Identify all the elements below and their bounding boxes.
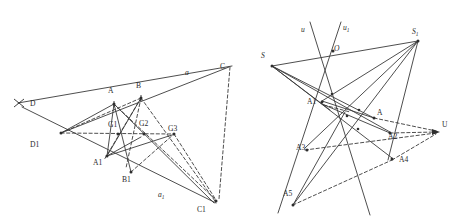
point-inner-4 bbox=[357, 128, 360, 131]
segment-D1-A bbox=[61, 104, 114, 133]
label-S: S bbox=[261, 51, 265, 60]
label-A3: A3 bbox=[296, 143, 305, 152]
point-A1 bbox=[106, 155, 109, 158]
point-A3 bbox=[306, 149, 309, 152]
label-D1: D1 bbox=[30, 140, 39, 149]
label-A4: A4 bbox=[399, 155, 408, 164]
point-inner-1 bbox=[331, 93, 334, 96]
dashed-D1-B bbox=[61, 98, 141, 133]
dashed-A-U bbox=[374, 118, 436, 131]
segment-S1-A4b bbox=[388, 41, 418, 160]
label-line-a1: a1 bbox=[158, 190, 165, 200]
label-O: O bbox=[334, 44, 340, 53]
label-line-u1: u1 bbox=[343, 23, 350, 33]
point-inner-2 bbox=[346, 115, 349, 118]
segment-S-A2 bbox=[272, 66, 390, 132]
segment-B1-A bbox=[114, 104, 131, 172]
label-D: D bbox=[30, 99, 36, 108]
right-construction: u u1 S S1 O A1 A A2 A3 A4 A5 U bbox=[261, 22, 448, 215]
label-A1: A1 bbox=[93, 158, 102, 167]
point-S1 bbox=[417, 40, 420, 43]
label-S1: S1 bbox=[412, 27, 419, 37]
segment-A1-A bbox=[107, 104, 114, 156]
dashed-C-C1 bbox=[219, 67, 230, 199]
point-A4 bbox=[391, 158, 394, 161]
point-inner-3 bbox=[358, 109, 361, 112]
label-G3: G3 bbox=[168, 124, 177, 133]
label-B: B bbox=[136, 81, 141, 90]
point-A1-right bbox=[321, 101, 324, 104]
label-C: C bbox=[220, 62, 225, 71]
label-U: U bbox=[442, 120, 448, 129]
point-C1 bbox=[215, 200, 218, 203]
label-A1-right: A1 bbox=[307, 97, 316, 106]
label-A: A bbox=[108, 86, 114, 95]
label-A2: A2 bbox=[388, 132, 397, 141]
label-line-u: u bbox=[301, 25, 305, 34]
geometry-figure: D D1 A B C A1 B1 C1 G1 G2 G3 a a1 bbox=[0, 0, 464, 223]
label-line-a1-sub: 1 bbox=[162, 194, 165, 200]
line-a bbox=[18, 66, 232, 103]
left-construction: D D1 A B C A1 B1 C1 G1 G2 G3 a a1 bbox=[14, 62, 232, 214]
point-G1 bbox=[117, 133, 120, 136]
dashed-B-C1 bbox=[141, 98, 215, 201]
point-D1 bbox=[60, 132, 63, 135]
dashed-B-B1 bbox=[126, 98, 141, 168]
label-G1: G1 bbox=[108, 120, 117, 129]
label-G2: G2 bbox=[139, 119, 148, 128]
point-A5 bbox=[292, 204, 295, 207]
label-line-u1-sub: 1 bbox=[347, 27, 350, 33]
segment-S-A1 bbox=[272, 66, 330, 110]
segment-A5-A3up bbox=[293, 112, 345, 205]
figure-canvas: D D1 A B C A1 B1 C1 G1 G2 G3 a a1 bbox=[0, 0, 464, 223]
label-S1-sub: 1 bbox=[416, 31, 419, 37]
dashed-A5-A4 bbox=[293, 160, 392, 205]
point-B1 bbox=[130, 171, 133, 174]
label-A5: A5 bbox=[283, 189, 292, 198]
point-S bbox=[271, 65, 274, 68]
point-A-right bbox=[373, 117, 376, 120]
point-G2 bbox=[143, 133, 146, 136]
label-B1: B1 bbox=[122, 175, 131, 184]
label-C1: C1 bbox=[197, 205, 206, 214]
label-line-a: a bbox=[185, 68, 189, 77]
label-A-right: A bbox=[377, 108, 383, 117]
